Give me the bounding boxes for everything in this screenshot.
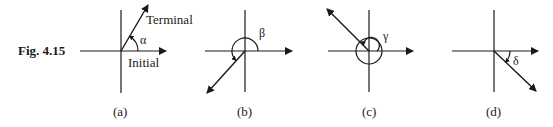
initial-label: Initial [128, 57, 159, 69]
panel-b [205, 10, 292, 93]
angle-delta-label: δ [513, 55, 519, 67]
panel-d [452, 10, 538, 92]
terminal-label: Terminal [146, 14, 193, 26]
caption-d: (d) [486, 104, 501, 120]
caption-b: (b) [237, 104, 252, 120]
terminal-side-arrow [207, 51, 245, 93]
caption-c: (c) [362, 104, 376, 120]
angle-beta-label: β [259, 27, 265, 39]
angle-arc-alpha [130, 36, 139, 51]
angle-diagrams [0, 0, 553, 127]
terminal-side-arrow [327, 9, 369, 51]
angle-arc-gamma [363, 37, 379, 51]
angle-alpha-label: α [140, 34, 146, 46]
angle-arc-delta [506, 51, 511, 62]
angle-gamma-label: γ [383, 30, 388, 42]
panel-c [327, 9, 413, 92]
caption-a: (a) [113, 104, 127, 120]
